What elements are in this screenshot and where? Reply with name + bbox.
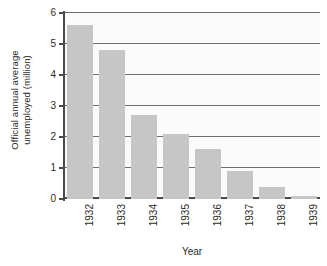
y-tick-1 — [59, 167, 63, 168]
y-axis-title-line1: Official annual average — [9, 50, 21, 149]
bar-1935 — [163, 134, 189, 199]
y-tick-label-4: 4 — [36, 70, 56, 80]
x-tick-label-1937: 1937 — [245, 204, 255, 226]
x-tick-label-1936: 1936 — [213, 204, 223, 226]
y-tick-label-3: 3 — [36, 101, 56, 111]
y-tick-label-5: 5 — [36, 39, 56, 49]
y-tick-3 — [59, 105, 63, 106]
bar-1936 — [195, 149, 221, 199]
y-tick-label-6: 6 — [36, 8, 56, 18]
bar-1937 — [227, 171, 253, 199]
y-tick-label-2: 2 — [36, 132, 56, 142]
x-tick-label-1933: 1933 — [117, 204, 127, 226]
y-tick-0 — [59, 198, 63, 199]
y-tick-label-1: 1 — [36, 163, 56, 173]
bar-1939 — [291, 196, 317, 199]
y-tick-2 — [59, 136, 63, 137]
x-axis-title: Year — [64, 246, 320, 257]
bar-1932 — [67, 25, 93, 199]
x-tick-label-1935: 1935 — [181, 204, 191, 226]
y-tick-5 — [59, 43, 63, 44]
x-tick-label-1939: 1939 — [309, 204, 319, 226]
unemployment-bar-chart: Official annual average unemployed (mill… — [0, 0, 327, 266]
x-tick-label-1938: 1938 — [277, 204, 287, 226]
plot-area — [64, 13, 320, 199]
bar-1934 — [131, 115, 157, 199]
y-tick-4 — [59, 74, 63, 75]
bar-series — [64, 13, 320, 199]
y-tick-label-0: 0 — [36, 194, 56, 204]
x-tick-label-1934: 1934 — [149, 204, 159, 226]
x-tick-label-1932: 1932 — [85, 204, 95, 226]
y-axis-spine — [63, 11, 65, 201]
bar-1938 — [259, 187, 285, 199]
y-tick-6 — [59, 12, 63, 13]
bar-1933 — [99, 50, 125, 199]
y-axis-title-line2: unemployed (million) — [21, 50, 33, 149]
